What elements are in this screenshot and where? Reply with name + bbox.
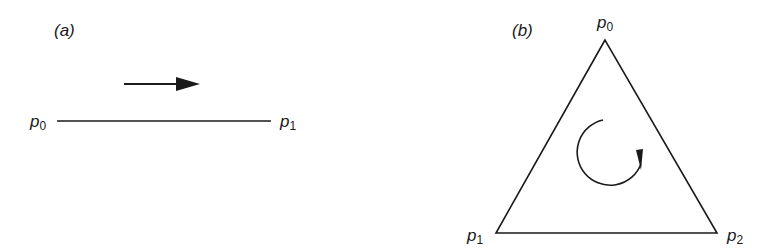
panel-a-label: (a): [54, 22, 75, 39]
point-label-b-p1: p1: [467, 227, 483, 246]
point-label-b-p2: p2: [727, 227, 743, 246]
arrow-head-icon: [176, 77, 200, 91]
point-label-a-p1: p1: [280, 113, 296, 132]
rotation-arc: [577, 120, 641, 185]
panel-b-label: (b): [512, 22, 533, 39]
diagram-canvas: [0, 0, 778, 251]
point-label-a-p0: p0: [30, 113, 46, 132]
triangle: [496, 40, 717, 233]
point-label-b-p0: p0: [597, 14, 613, 33]
